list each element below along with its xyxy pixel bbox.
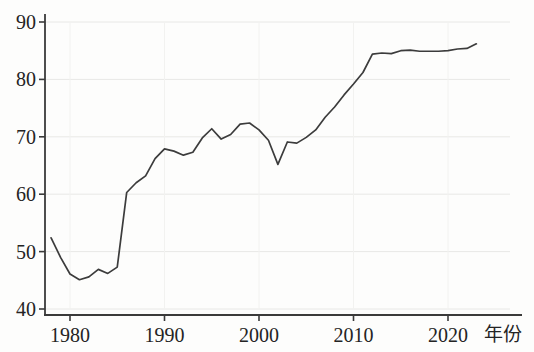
tick-marks [39, 22, 448, 321]
y-tick-label: 50 [0, 242, 36, 262]
y-tick-label: 90 [0, 12, 36, 32]
y-tick-label: 40 [0, 299, 36, 319]
y-tick-label: 80 [0, 69, 36, 89]
x-axis-title: 年份 [484, 325, 522, 344]
x-tick-label: 1990 [130, 325, 200, 345]
gridlines [45, 22, 510, 309]
x-tick-label: 2000 [224, 325, 294, 345]
x-tick-label: 1980 [35, 325, 105, 345]
chart-plot-area [0, 0, 534, 352]
y-tick-label: 60 [0, 184, 36, 204]
axis-lines [44, 14, 522, 315]
x-tick-label: 2020 [413, 325, 483, 345]
y-tick-label: 70 [0, 127, 36, 147]
line-chart: 405060708090 19801990200020102020 年份 [0, 0, 534, 352]
x-tick-label: 2010 [319, 325, 389, 345]
